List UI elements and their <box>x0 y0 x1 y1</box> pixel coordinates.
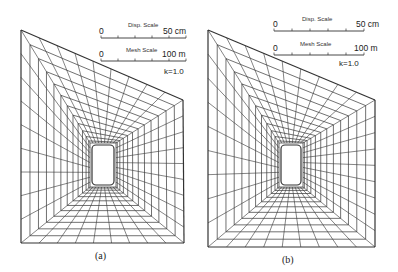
disp-scale-label-b: Disp. Scale <box>302 16 332 22</box>
mesh-diagram-b <box>0 0 398 272</box>
caption-b: (b) <box>282 254 294 265</box>
k-ratio-label-b: k=1.0 <box>339 59 359 68</box>
mesh-scale-label-b: Mesh Scale <box>300 41 331 47</box>
mesh-scale-min-b: 0 <box>273 43 278 53</box>
mesh-scale-max-b: 100 m <box>354 43 378 53</box>
disp-scale-max-b: 50 cm <box>356 19 379 29</box>
panel-b: Disp. Scale 0 50 cm Mesh Scale 0 100 m k… <box>0 0 398 272</box>
disp-scale-min-b: 0 <box>273 19 278 29</box>
